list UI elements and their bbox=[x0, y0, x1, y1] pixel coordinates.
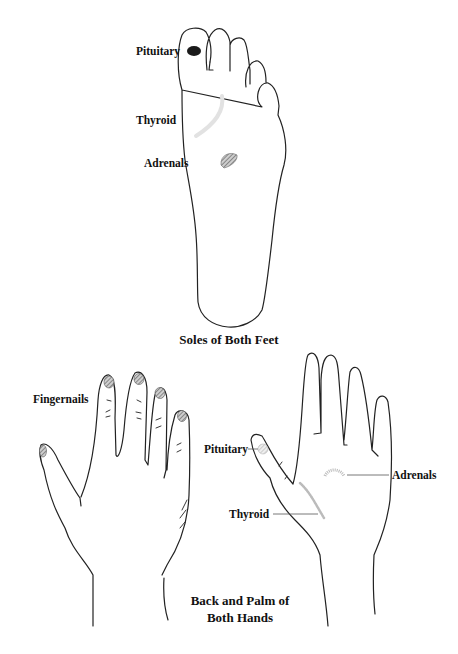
palm-hand-outline bbox=[251, 353, 391, 626]
foot-adrenals-point bbox=[221, 153, 237, 168]
foot-sole-drawing bbox=[178, 28, 286, 327]
palm-of-hand-drawing bbox=[251, 353, 391, 626]
hands-caption: Back and Palm of Both Hands bbox=[180, 592, 300, 626]
palm-label-pituitary: Pituitary bbox=[204, 444, 248, 456]
back-hand-label-fingernails: Fingernails bbox=[33, 394, 89, 406]
hands-caption-line2: Both Hands bbox=[180, 609, 300, 626]
palm-adrenals-point bbox=[325, 470, 344, 476]
foot-outline bbox=[178, 28, 286, 327]
palm-label-thyroid: Thyroid bbox=[229, 509, 269, 521]
foot-pituitary-point bbox=[187, 46, 201, 56]
palm-pituitary-point bbox=[258, 444, 268, 454]
fingernail-points bbox=[40, 374, 187, 458]
back-hand-outline bbox=[40, 372, 190, 626]
reflexology-diagram bbox=[0, 0, 458, 654]
palm-label-adrenals: Adrenals bbox=[392, 470, 437, 482]
foot-label-adrenals: Adrenals bbox=[144, 158, 189, 170]
foot-label-thyroid: Thyroid bbox=[136, 115, 176, 127]
foot-thyroid-point bbox=[196, 96, 222, 136]
palm-thyroid-point bbox=[300, 483, 324, 518]
back-of-hand-drawing bbox=[40, 372, 190, 626]
hands-caption-line1: Back and Palm of bbox=[180, 592, 300, 609]
foot-caption: Soles of Both Feet bbox=[166, 331, 292, 348]
foot-label-pituitary: Pituitary bbox=[136, 46, 180, 58]
